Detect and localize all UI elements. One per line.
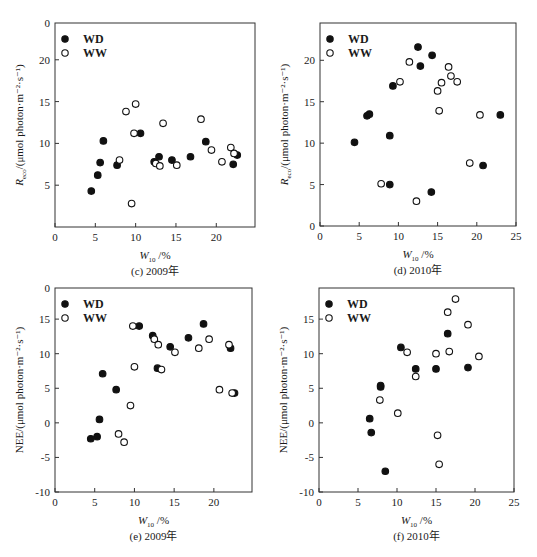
y-tick-label: 0: [310, 220, 316, 232]
x-tick-label: 0: [317, 230, 323, 242]
data-point-wd: [137, 130, 144, 137]
x-tick-label: 20: [471, 230, 483, 242]
y-tick-label: -10: [299, 486, 314, 498]
scatter-chart-f: 0510152025-10-5051015W10 /%(f) 2010年NEE/…: [270, 275, 537, 557]
data-point-ww: [229, 390, 236, 397]
data-point-ww: [397, 79, 404, 86]
scatter-chart-c: 0510152051015200W10 /%(c) 2009年Reco/(μmo…: [0, 0, 270, 280]
data-point-wd: [417, 63, 424, 70]
data-point-ww: [206, 336, 213, 343]
scatter-chart-d: 051015202505101520W10 /%(d) 2010年Reco/(μ…: [270, 0, 537, 280]
data-point-ww: [128, 200, 135, 207]
y-tick-label-top: 0: [45, 282, 51, 294]
data-point-ww: [123, 108, 130, 115]
data-point-wd: [203, 138, 210, 145]
x-tick-label: 15: [169, 496, 181, 508]
chart-panel-f: 0510152025-10-5051015W10 /%(f) 2010年NEE/…: [270, 275, 537, 557]
data-point-wd: [368, 429, 375, 436]
y-tick-label: 15: [303, 313, 315, 325]
chart-panel-c: 0510152051015200W10 /%(c) 2009年Reco/(μmo…: [0, 0, 270, 280]
data-point-ww: [378, 180, 385, 187]
data-point-ww: [131, 130, 138, 137]
y-tick-label: 15: [39, 313, 51, 325]
data-point-ww: [466, 160, 473, 167]
legend-marker-open-icon: [62, 315, 68, 321]
data-point-wd: [185, 334, 192, 341]
legend-label: WW: [83, 311, 107, 325]
y-tick-label: 5: [45, 179, 51, 191]
data-point-ww: [115, 431, 122, 438]
data-point-wd: [480, 162, 487, 169]
x-axis-label: W10 /%: [401, 514, 432, 529]
y-tick-label: 20: [39, 54, 51, 66]
x-tick-label: 15: [432, 230, 444, 242]
legend-marker-open-icon: [327, 50, 333, 56]
y-tick-label: 10: [303, 348, 315, 360]
x-axis-label: W10 /%: [138, 514, 169, 529]
data-point-ww: [445, 64, 452, 71]
legend-label: WD: [347, 297, 368, 311]
data-point-ww: [173, 162, 180, 169]
data-point-wd: [377, 382, 384, 389]
x-tick-label: 10: [129, 496, 141, 508]
y-tick-label: 15: [39, 96, 51, 108]
data-point-ww: [476, 353, 483, 360]
data-point-ww: [452, 296, 459, 303]
data-point-ww: [198, 116, 205, 123]
data-point-wd: [390, 83, 397, 90]
data-point-ww: [130, 323, 137, 330]
data-point-wd: [136, 323, 143, 330]
panel-caption: (f) 2010年: [393, 529, 440, 543]
x-tick-label: 0: [316, 496, 322, 508]
x-tick-label: 15: [170, 231, 182, 243]
y-tick-label: 15: [304, 96, 316, 108]
x-tick-label: 0: [52, 496, 58, 508]
data-point-ww: [434, 88, 441, 95]
y-tick-label: 0: [45, 417, 51, 429]
data-point-ww: [172, 349, 179, 356]
x-tick-label: 5: [356, 230, 362, 242]
data-point-ww: [155, 341, 162, 348]
y-axis-label: NEE/(μmol photon·m⁻²·s⁻¹): [13, 326, 26, 453]
y-tick-label: 5: [45, 382, 51, 394]
data-point-wd: [100, 138, 107, 145]
legend-marker-filled-icon: [62, 301, 68, 307]
x-tick-label: 10: [393, 230, 405, 242]
y-tick-label: 0: [309, 417, 315, 429]
data-point-wd: [415, 44, 422, 51]
data-point-wd: [230, 161, 237, 168]
data-point-ww: [195, 345, 202, 352]
data-point-wd: [429, 52, 436, 59]
x-tick-label: 10: [130, 231, 142, 243]
x-tick-label: 10: [392, 496, 404, 508]
data-point-wd: [187, 153, 194, 160]
y-tick-label: -5: [41, 451, 51, 463]
legend-label: WD: [348, 32, 369, 46]
data-point-wd: [96, 416, 103, 423]
y-tick-label: 10: [304, 137, 316, 149]
data-point-wd: [433, 366, 440, 373]
data-point-ww: [394, 410, 401, 417]
data-point-ww: [131, 364, 138, 371]
data-point-ww: [454, 79, 461, 86]
data-point-ww: [158, 366, 165, 373]
x-tick-label: 20: [211, 231, 223, 243]
data-point-ww: [477, 112, 484, 119]
data-point-ww: [377, 397, 384, 404]
data-point-ww: [438, 79, 445, 86]
x-tick-label: 20: [208, 496, 220, 508]
data-point-ww: [413, 198, 420, 205]
data-point-ww: [444, 309, 451, 316]
panel-caption: (e) 2009年: [130, 529, 178, 543]
x-axis-label: W10 /%: [402, 248, 433, 263]
y-axis-label: Reco/(μmol photon·m⁻²·s⁻¹): [278, 63, 293, 186]
data-point-wd: [366, 111, 373, 118]
data-point-ww: [116, 157, 123, 164]
data-point-ww: [160, 120, 167, 127]
x-tick-label: 25: [509, 496, 521, 508]
x-tick-label: 15: [431, 496, 443, 508]
y-axis-label: NEE/(μmol photon·m⁻²·s⁻¹): [277, 326, 290, 453]
x-tick-label: 20: [470, 496, 482, 508]
data-point-wd: [167, 343, 174, 350]
x-tick-label: 5: [355, 496, 361, 508]
